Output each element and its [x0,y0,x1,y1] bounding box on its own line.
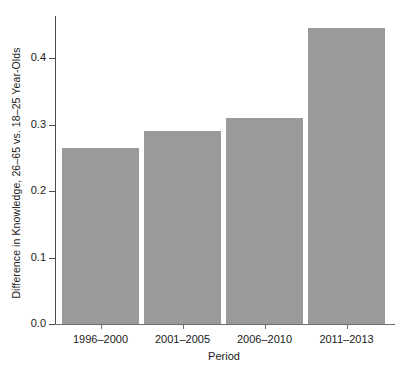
x-axis-tick-mark [183,324,184,329]
x-axis-tick-mark [347,324,348,329]
x-axis-tick-mark [265,324,266,329]
y-axis-tick-mark [49,191,55,192]
bar-chart: Difference in Knowledge, 26–65 vs. 18–25… [0,0,406,378]
y-axis-tick-label: 0.2 [6,185,46,196]
y-axis-tick-label: 0.4 [6,52,46,63]
x-axis-tick-label: 2001–2005 [138,333,228,346]
x-axis-tick-label: 2006–2010 [220,333,310,346]
bar [226,118,303,324]
x-axis-line [55,324,395,325]
y-axis-tick-mark [49,258,55,259]
x-axis-title: Period [0,350,406,362]
bar [62,148,139,324]
y-axis-tick-label: 0.0 [6,318,46,329]
y-axis-tick-label: 0.1 [6,252,46,263]
y-axis-tick-label: 0.3 [6,119,46,130]
y-axis-tick-mark [49,58,55,59]
y-axis-tick-mark [49,324,55,325]
x-axis-tick-label: 1996–2000 [56,333,146,346]
x-axis-tick-label: 2011–2013 [302,333,392,346]
x-axis-tick-mark [101,324,102,329]
y-axis-line [55,16,56,325]
bar [308,28,385,324]
x-axis-title-text: Period [208,350,240,362]
y-axis-tick-mark [49,125,55,126]
bar [144,131,221,324]
